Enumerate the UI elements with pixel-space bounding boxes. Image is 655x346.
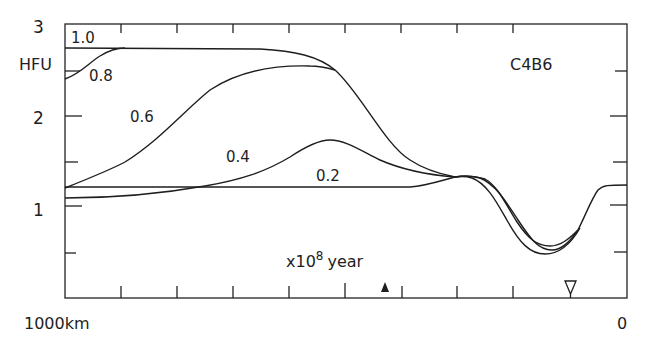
series-label-0-6: 0.6	[130, 108, 154, 126]
series-label-0-8: 0.8	[89, 67, 113, 85]
left-ticks	[65, 71, 82, 253]
open-triangle-marker	[565, 281, 576, 294]
curve-right-a	[455, 176, 578, 250]
time-unit-label: x108year	[286, 249, 364, 271]
y-tick-3: 3	[33, 17, 44, 37]
series-label-0-2: 0.2	[316, 167, 340, 185]
curve-right-c	[455, 176, 580, 254]
top-ticks	[121, 24, 513, 33]
y-tick-1: 1	[33, 200, 44, 220]
chart-title: C4B6	[510, 55, 553, 74]
x-axis-left-label: 1000km	[24, 314, 90, 333]
filled-triangle-marker	[381, 282, 389, 292]
curve-0-2	[65, 177, 455, 187]
curve-right-tail	[578, 185, 627, 230]
y-axis-label: HFU	[19, 55, 52, 74]
right-ticks	[610, 71, 627, 252]
bottom-ticks	[121, 283, 513, 298]
y-tick-2: 2	[33, 108, 44, 128]
curve-1-0	[65, 48, 455, 177]
heat-flow-chart: 3 2 1 HFU 1000km 0 C4B6 x108year 1.0 0.8…	[0, 0, 655, 346]
series-label-0-4: 0.4	[226, 148, 250, 166]
x-axis-right-label: 0	[617, 314, 627, 333]
series-label-1-0: 1.0	[71, 29, 95, 47]
